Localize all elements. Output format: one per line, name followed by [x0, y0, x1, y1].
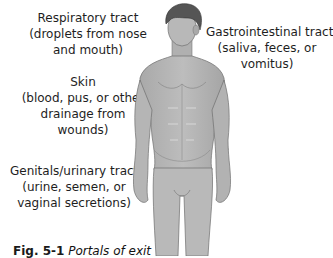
label-detail: vaginal secretions)	[10, 195, 138, 211]
label-detail: wounds)	[18, 122, 148, 138]
label-detail: drainage from	[18, 106, 148, 122]
label-detail: (urine, semen, or	[10, 179, 138, 195]
label-genitals-urinary-tract: Genitals/urinary tract (urine, semen, or…	[10, 163, 138, 211]
figure-number: Fig. 5-1	[13, 244, 64, 258]
figure-caption: Fig. 5-1 Portals of exit	[13, 244, 151, 258]
label-title: Genitals/urinary tract	[10, 163, 138, 179]
label-title: Skin	[18, 74, 148, 90]
label-skin: Skin (blood, pus, or other drainage from…	[18, 74, 148, 138]
figure-title: Portals of exit	[68, 244, 151, 258]
human-body-illustration	[130, 0, 240, 256]
label-detail: (blood, pus, or other	[18, 90, 148, 106]
